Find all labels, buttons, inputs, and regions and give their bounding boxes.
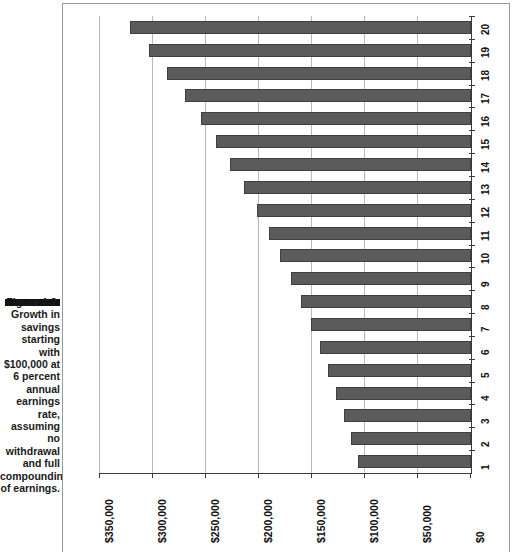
category-axis-tick	[469, 176, 475, 177]
category-axis-label: 6	[480, 349, 491, 355]
category-axis-label: 14	[480, 162, 491, 173]
x-axis-label: $0	[474, 531, 486, 543]
category-axis-label: 5	[480, 372, 491, 378]
category-axis-tick	[469, 313, 475, 314]
category-axis-tick	[469, 153, 475, 154]
x-axis-label: $300,000	[156, 499, 168, 543]
x-axis-label: $100,000	[368, 499, 380, 543]
bar	[336, 387, 471, 400]
category-axis-tick	[469, 336, 475, 337]
category-axis-label: 4	[480, 395, 491, 401]
category-axis-tick	[469, 62, 475, 63]
category-axis-tick	[469, 359, 475, 360]
category-axis-label: 10	[480, 253, 491, 264]
bar	[358, 455, 471, 468]
gridline	[364, 16, 365, 473]
x-axis-label: $350,000	[103, 499, 115, 543]
bar-chart: $350,000$300,000$250,000$200,000$150,000…	[0, 0, 519, 552]
category-axis-label: 9	[480, 281, 491, 287]
bar	[216, 135, 471, 148]
category-axis-tick	[469, 222, 475, 223]
bar	[269, 227, 471, 240]
category-axis-label: 13	[480, 184, 491, 195]
category-axis-label: 17	[480, 93, 491, 104]
category-axis-label: 16	[480, 116, 491, 127]
bar	[244, 181, 471, 194]
category-axis-tick	[469, 267, 475, 268]
bar	[149, 44, 471, 57]
category-axis-tick	[469, 450, 475, 451]
bar	[328, 364, 471, 377]
category-axis-tick	[469, 107, 475, 108]
category-axis-label: 2	[480, 441, 491, 447]
x-axis-label: $50,000	[421, 505, 433, 543]
category-axis-label: 19	[480, 47, 491, 58]
category-axis-label: 1	[480, 464, 491, 470]
gridline	[258, 16, 259, 473]
category-axis-label: 11	[480, 230, 491, 241]
category-axis-tick	[469, 382, 475, 383]
category-axis-tick	[469, 16, 475, 17]
x-axis-line	[99, 473, 472, 474]
x-axis-label: $150,000	[315, 499, 327, 543]
x-axis-label: $250,000	[209, 499, 221, 543]
category-axis-tick	[469, 130, 475, 131]
category-axis-tick	[469, 39, 475, 40]
category-axis-label: 18	[480, 70, 491, 81]
bar	[201, 112, 471, 125]
bar	[167, 67, 471, 80]
bar	[230, 158, 471, 171]
bar	[311, 318, 471, 331]
gridline	[205, 16, 206, 473]
category-axis-label: 20	[480, 24, 491, 35]
category-axis-tick	[469, 245, 475, 246]
category-axis-tick	[469, 404, 475, 405]
category-axis-label: 8	[480, 304, 491, 310]
bar	[351, 432, 471, 445]
category-axis-tick	[469, 85, 475, 86]
gridline	[417, 16, 418, 473]
category-axis-tick	[469, 199, 475, 200]
gridline	[152, 16, 153, 473]
category-axis-label: 7	[480, 326, 491, 332]
bar	[320, 341, 471, 354]
category-axis-label: 15	[480, 139, 491, 150]
bar	[280, 249, 471, 262]
bar	[291, 272, 471, 285]
category-axis-label: 3	[480, 418, 491, 424]
gridline	[311, 16, 312, 473]
category-axis-tick	[469, 427, 475, 428]
gridline	[99, 16, 100, 473]
bar	[130, 21, 471, 34]
category-axis-label: 12	[480, 207, 491, 218]
category-axis-tick	[469, 290, 475, 291]
bar	[344, 409, 471, 422]
bar	[301, 295, 471, 308]
x-axis-label: $200,000	[262, 499, 274, 543]
bar	[257, 204, 471, 217]
bar	[185, 89, 471, 102]
